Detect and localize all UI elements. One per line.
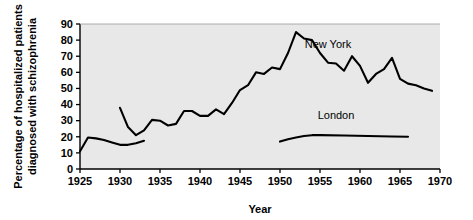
x-tick-label: 1965 bbox=[388, 175, 412, 187]
y-tick-label: 30 bbox=[61, 114, 73, 126]
plot-area-background bbox=[80, 24, 440, 169]
y-tick-label: 60 bbox=[61, 66, 73, 78]
series-label-london: London bbox=[318, 109, 355, 121]
chart-figure: 1925193019351940194519501955196019651970… bbox=[0, 0, 473, 220]
y-tick-label: 70 bbox=[61, 50, 73, 62]
x-tick-label: 1950 bbox=[268, 175, 292, 187]
y-axis-title-line-1: Percentage of hospitalized patients bbox=[12, 4, 24, 189]
y-tick-label: 90 bbox=[61, 18, 73, 30]
y-tick-label: 40 bbox=[61, 98, 73, 110]
x-tick-label: 1945 bbox=[228, 175, 252, 187]
y-tick-label: 0 bbox=[67, 163, 73, 175]
x-tick-label: 1970 bbox=[428, 175, 452, 187]
y-tick-label: 20 bbox=[61, 131, 73, 143]
x-tick-label: 1930 bbox=[108, 175, 132, 187]
x-tick-label: 1925 bbox=[68, 175, 92, 187]
y-tick-label: 10 bbox=[61, 147, 73, 159]
series-label-new-york: New York bbox=[305, 38, 352, 50]
x-axis-title: Year bbox=[248, 203, 272, 215]
schizophrenia-diagnosis-line-chart: 1925193019351940194519501955196019651970… bbox=[0, 0, 473, 220]
x-tick-label: 1955 bbox=[308, 175, 332, 187]
x-tick-label: 1935 bbox=[148, 175, 172, 187]
x-tick-label: 1960 bbox=[348, 175, 372, 187]
x-tick-label: 1940 bbox=[188, 175, 212, 187]
y-tick-label: 80 bbox=[61, 34, 73, 46]
y-tick-label: 50 bbox=[61, 82, 73, 94]
y-axis-title-line-2: diagnosed with schizophrenia bbox=[26, 17, 38, 175]
